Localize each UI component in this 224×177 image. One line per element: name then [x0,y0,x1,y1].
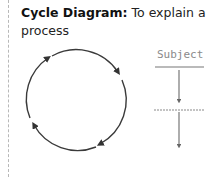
cycle-arc-top [52,50,118,72]
cycle-arc-right [100,80,126,144]
diagram-canvas: Subject [0,0,224,177]
flow-diagram: Subject [154,48,205,146]
cycle-arc-left [26,58,48,118]
cycle-arc-bottom [34,125,96,151]
subject-label: Subject [157,48,203,61]
cycle-diagram [26,50,126,151]
